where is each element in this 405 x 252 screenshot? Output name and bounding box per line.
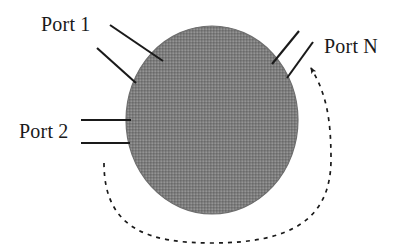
port-circle-diagram: Port 1 Port 2 Port N	[0, 0, 405, 252]
port-n-line-right	[287, 42, 313, 78]
port-2-label: Port 2	[19, 121, 69, 141]
port-1-line-lower	[97, 48, 136, 83]
port-1-label: Port 1	[41, 14, 91, 34]
port-n-label: Port N	[324, 36, 378, 56]
port-n-line-left	[272, 31, 299, 64]
port-1-line-upper	[110, 25, 163, 61]
